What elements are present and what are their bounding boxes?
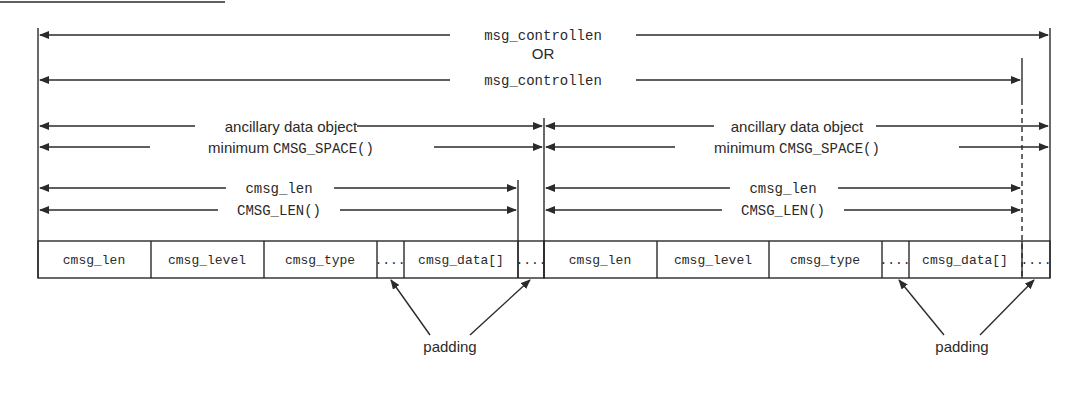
- cell-pad-a-1: ....: [374, 253, 405, 268]
- space-label-1: minimum CMSG_SPACE(): [208, 139, 374, 157]
- cmsg-len-label-2: cmsg_len: [749, 181, 816, 197]
- cell-cmsg-data-2: cmsg_data[]: [922, 253, 1008, 268]
- cmsg-len-fn-1: CMSG_LEN(): [237, 203, 321, 219]
- msg-controllen-alt-arrow: msg_controllen: [40, 71, 1020, 89]
- cmsg-len-fn-2: CMSG_LEN(): [741, 203, 825, 219]
- cell-pad-b-2: ....: [1020, 253, 1051, 268]
- cell-cmsg-level-1: cmsg_level: [168, 253, 246, 268]
- msg-controllen-full-arrow: msg_controllen: [40, 26, 1048, 44]
- cell-pad-b-1: ....: [515, 253, 546, 268]
- cmsg-layout-diagram: msg_controllen OR msg_controllen ancilla…: [0, 0, 1086, 393]
- cell-cmsg-type-1: cmsg_type: [285, 253, 355, 268]
- space-label-2: minimum CMSG_SPACE(): [714, 139, 880, 157]
- padding-pointer-b-2: [980, 280, 1034, 335]
- ancillary-object-2: ancillary data object minimum CMSG_SPACE…: [544, 117, 1052, 355]
- padding-label-1: padding: [423, 338, 476, 355]
- cell-cmsg-len-2: cmsg_len: [569, 253, 631, 268]
- cell-cmsg-level-2: cmsg_level: [674, 253, 752, 268]
- cell-cmsg-len-1: cmsg_len: [63, 253, 125, 268]
- padding-label-2: padding: [935, 338, 988, 355]
- cell-pad-a-2: ....: [879, 253, 910, 268]
- padding-pointer-a-2: [899, 280, 944, 335]
- space-prefix-2: minimum: [714, 139, 779, 156]
- cmsg-space-fn-1: CMSG_SPACE(): [273, 141, 374, 157]
- ancillary-object-1: ancillary data object minimum CMSG_SPACE…: [38, 117, 547, 355]
- msg-controllen-label-2: msg_controllen: [484, 73, 602, 89]
- msg-controllen-label-1: msg_controllen: [484, 28, 602, 44]
- or-label: OR: [532, 45, 555, 62]
- object-label-2: ancillary data object: [731, 118, 864, 135]
- cmsg-len-label-1: cmsg_len: [245, 181, 312, 197]
- space-prefix-1: minimum: [208, 139, 273, 156]
- object-label-1: ancillary data object: [225, 118, 358, 135]
- cmsg-space-fn-2: CMSG_SPACE(): [779, 141, 880, 157]
- padding-pointer-a-1: [391, 280, 430, 335]
- padding-pointer-b-1: [470, 280, 530, 335]
- cell-cmsg-type-2: cmsg_type: [790, 253, 860, 268]
- cell-cmsg-data-1: cmsg_data[]: [418, 253, 504, 268]
